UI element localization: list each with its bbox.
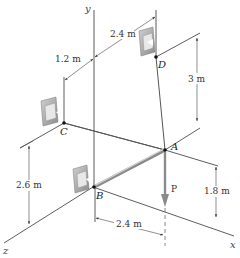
dim-c-height: 2.6 m — [16, 180, 42, 190]
bracket-d — [139, 27, 155, 56]
bracket-c — [41, 97, 63, 126]
dim-c-offset: 1.2 m — [55, 54, 81, 64]
point-d-label: D — [157, 59, 166, 70]
cable-ac — [64, 123, 165, 150]
load-p: P — [161, 152, 177, 246]
point-a-label: A — [170, 141, 178, 152]
x-axis-label: x — [230, 239, 236, 250]
z-axis — [4, 187, 93, 243]
cables — [64, 57, 165, 150]
a-to-right-line — [165, 150, 218, 166]
point-c-label: C — [60, 126, 68, 137]
point-c — [62, 121, 66, 125]
z-axis-label: z — [2, 245, 9, 256]
load-label: P — [171, 184, 177, 194]
dim-d-offset: 2.4 m — [110, 29, 136, 39]
point-a — [163, 148, 167, 152]
load-arrow-head — [161, 194, 169, 207]
bracket-b — [73, 165, 92, 193]
d-to-right-line — [156, 33, 200, 57]
cable-ad — [156, 57, 165, 150]
point-b — [92, 185, 96, 189]
boom-ab — [94, 149, 165, 187]
y-axis-label: y — [84, 3, 91, 14]
dim-a-height: 1.8 m — [204, 186, 230, 196]
dim-d-height: 3 m — [188, 74, 206, 84]
point-b-label: B — [95, 190, 103, 201]
dimensions: 2.4 m 1.2 m 3 m 2.6 m 1.8 m 2.4 m — [15, 17, 231, 235]
dim-a-offset-x: 2.4 m — [116, 219, 142, 229]
structure-diagram: y x z — [0, 0, 240, 258]
